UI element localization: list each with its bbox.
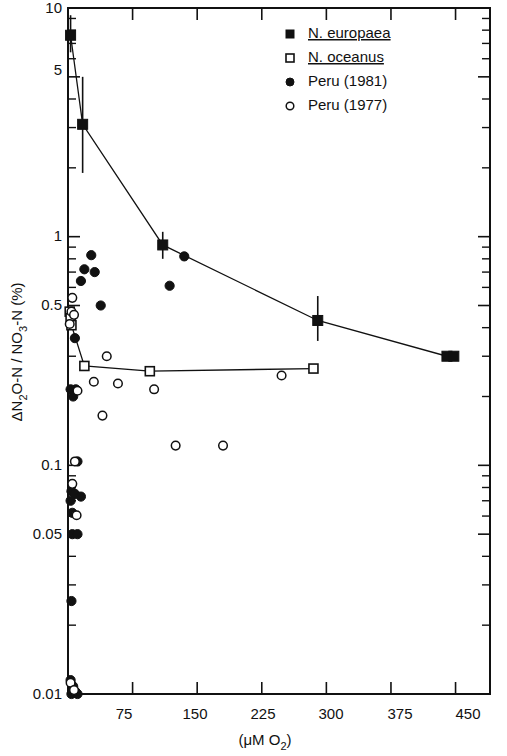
x-axis-tick-labels: 75 150 225 300 375 450 (116, 705, 481, 722)
series-peru-1977 (65, 294, 285, 695)
data-point (180, 252, 189, 261)
data-point (76, 492, 85, 501)
x-tick-label-300: 300 (318, 705, 343, 722)
data-point (150, 385, 159, 394)
data-point (65, 320, 74, 329)
data-point (66, 30, 76, 40)
svg-text:ΔN2O-N / NO3-N (%): ΔN2O-N / NO3-N (%) (8, 283, 29, 422)
legend-label: N. oceanus (308, 48, 384, 65)
data-point (71, 457, 80, 466)
data-point (66, 496, 75, 505)
x-title-close: ) (287, 731, 292, 748)
legend-marker (286, 102, 294, 110)
data-point (309, 364, 318, 373)
data-point (80, 265, 89, 274)
series-peru-1981 (66, 251, 189, 699)
data-point (70, 311, 79, 320)
x-axis-title: (μM O2) (238, 731, 291, 752)
data-point (165, 281, 174, 290)
data-point (80, 361, 89, 370)
scatter-plot: 10 5 1 0.5 0.1 0.05 0.01 75 150 225 300 … (0, 0, 507, 756)
x-title-mu: μM O (243, 731, 280, 748)
data-point (68, 480, 77, 489)
series-n-europaea (66, 15, 459, 361)
data-point (90, 267, 99, 276)
y-tick-label-0.05: 0.05 (33, 525, 62, 542)
x-tick-label-150: 150 (182, 705, 207, 722)
data-point (171, 441, 180, 450)
y-axis-title: ΔN2O-N / NO3-N (%) (8, 283, 29, 422)
y-tick-label-0.1: 0.1 (41, 456, 62, 473)
data-point (76, 276, 85, 285)
legend-item-n-oceanus: N. oceanus (286, 48, 384, 65)
data-point (449, 351, 459, 361)
chart-legend: N. europaeaN. oceanusPeru (1981)Peru (19… (286, 24, 391, 113)
series-layer (65, 15, 459, 698)
data-point (90, 377, 99, 386)
data-point (102, 352, 111, 361)
data-point (78, 119, 88, 129)
legend-item-peru-1977: Peru (1977) (286, 96, 387, 113)
data-point (67, 596, 76, 605)
data-point (158, 240, 168, 250)
legend-label: Peru (1977) (308, 96, 387, 113)
x-axis-ticks (133, 8, 456, 694)
legend-item-n-europaea: N. europaea (286, 24, 391, 41)
figure-container: 10 5 1 0.5 0.1 0.05 0.01 75 150 225 300 … (0, 0, 507, 756)
data-point (114, 379, 123, 388)
legend-marker (286, 78, 294, 86)
svg-text:(μM O2): (μM O2) (238, 731, 291, 752)
y-tick-label-5: 5 (54, 61, 62, 78)
x-tick-label-225: 225 (250, 705, 275, 722)
data-point (73, 530, 82, 539)
y-title-tail: -N (%) (8, 283, 25, 326)
series-line (70, 312, 314, 372)
data-point (145, 367, 154, 376)
y-tick-label-0.01: 0.01 (33, 685, 62, 702)
x-tick-label-375: 375 (387, 705, 412, 722)
data-point (70, 334, 79, 343)
data-point (313, 315, 323, 325)
data-point (96, 301, 105, 310)
x-tick-label-450: 450 (455, 705, 480, 722)
data-point (277, 371, 286, 380)
y-title-mid: O-N / NO (8, 332, 25, 395)
data-point (87, 251, 96, 260)
data-point (72, 511, 81, 520)
y-axis-tick-labels: 10 5 1 0.5 0.1 0.05 0.01 (33, 0, 62, 702)
series-line (71, 35, 454, 356)
series-n-oceanus (65, 307, 318, 376)
data-point (68, 294, 77, 303)
y-tick-label-1: 1 (54, 227, 62, 244)
data-point (73, 386, 82, 395)
legend-item-peru-1981: Peru (1981) (286, 72, 387, 89)
legend-marker (286, 30, 294, 38)
legend-label: N. europaea (308, 24, 391, 41)
y-tick-label-10: 10 (45, 0, 62, 16)
legend-label: Peru (1981) (308, 72, 387, 89)
data-point (70, 686, 79, 695)
data-point (219, 441, 228, 450)
y-tick-label-0.5: 0.5 (41, 296, 62, 313)
x-tick-label-75: 75 (116, 705, 133, 722)
y-title-delta: ΔN (8, 401, 25, 422)
data-point (98, 411, 107, 420)
legend-marker (286, 54, 294, 62)
